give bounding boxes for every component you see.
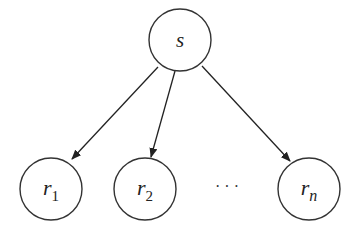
- node-r2: r2: [114, 158, 176, 220]
- node-rn-subscript: n: [309, 187, 317, 204]
- node-r2-subscript: 2: [146, 188, 154, 204]
- node-r1: r1: [20, 158, 82, 220]
- node-rn: rn: [278, 158, 340, 220]
- edge-s-to-r1: [72, 67, 158, 159]
- tree-diagram: s r1 r2 · · · rn: [0, 0, 353, 230]
- node-s: s: [149, 9, 211, 71]
- node-s-label: s: [176, 28, 184, 52]
- ellipsis: · · ·: [215, 178, 239, 195]
- edge-s-to-rn: [202, 66, 290, 161]
- node-r1-subscript: 1: [52, 188, 60, 204]
- edge-s-to-r2: [151, 71, 175, 157]
